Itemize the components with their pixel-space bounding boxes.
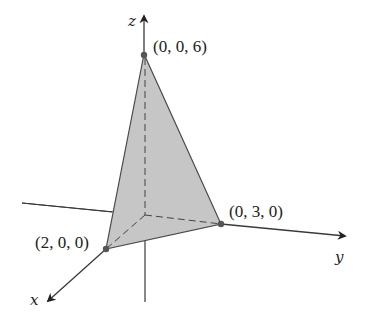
vertex-dot-z (141, 52, 147, 58)
x-axis-label: x (30, 291, 39, 309)
vertex-label-z: (0, 0, 6) (153, 37, 207, 56)
y-axis-label: y (334, 248, 344, 266)
vertex-dot-x (103, 246, 109, 252)
vertex-label-x: (2, 0, 0) (35, 233, 89, 252)
x-axis-positive (48, 249, 106, 301)
vertex-dot-y (218, 221, 224, 227)
triangle-face (106, 54, 221, 249)
vertex-label-y: (0, 3, 0) (229, 202, 283, 221)
octant-plane-diagram: z y x (0, 0, 6) (0, 3, 0) (2, 0, 0) (0, 0, 372, 322)
y-axis-positive (221, 224, 345, 236)
z-axis-label: z (127, 12, 136, 30)
y-axis-behind-face (22, 203, 112, 212)
